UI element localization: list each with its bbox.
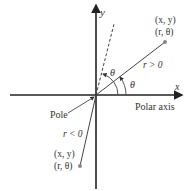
x-axis-label: x (174, 81, 180, 92)
pole-pointer (68, 97, 94, 113)
dashed-ray (96, 24, 114, 95)
y-axis-label: y (99, 6, 105, 18)
positive-point-cartesian: (x, y) (155, 15, 176, 26)
diagram-svg: y x (x, y) (r, θ) r > 0 θ θ Pole Polar a… (0, 0, 185, 191)
angle-label-inner: θ (130, 79, 135, 90)
polar-axis-label: Polar axis (135, 101, 175, 112)
polar-coordinates-diagram: y x (x, y) (r, θ) r > 0 θ θ Pole Polar a… (0, 0, 185, 191)
positive-r-label: r > 0 (143, 60, 163, 70)
negative-point-polar: (r, θ) (54, 161, 72, 172)
pole-label: Pole (50, 109, 68, 120)
angle-label-outer: θ (110, 67, 115, 78)
positive-point-polar: (r, θ) (155, 27, 173, 38)
positive-point (163, 40, 167, 44)
negative-r-label: r < 0 (63, 129, 83, 139)
angle-arc-inner (120, 77, 126, 95)
negative-point (78, 164, 82, 168)
negative-point-cartesian: (x, y) (54, 149, 75, 160)
